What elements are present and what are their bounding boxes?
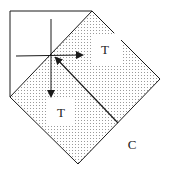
corner-label: C [128,137,137,152]
diagram-canvas: T T C [0,0,169,172]
stippled-diamond-region [10,11,160,164]
upper-region-label: T [101,42,109,57]
lower-region-label: T [57,105,65,120]
